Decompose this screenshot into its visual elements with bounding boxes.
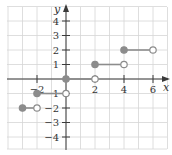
open-dot-icon [63, 90, 69, 96]
open-dot-icon [121, 61, 127, 67]
axes [7, 4, 170, 150]
step-segment [19, 105, 40, 111]
plot-area: −22464321−1−2−3−4 x y [0, 0, 172, 155]
y-tick-label: 3 [53, 30, 59, 41]
y-axis-label: y [53, 3, 61, 16]
y-tick-label: 1 [53, 59, 59, 70]
x-tick-label: 2 [92, 84, 98, 95]
closed-dot-icon [63, 76, 69, 82]
x-tick-label: 6 [150, 84, 156, 95]
y-tick-label: −3 [44, 117, 59, 128]
grid [7, 7, 168, 150]
closed-dot-icon [34, 90, 40, 96]
x-axis-label: x [163, 81, 170, 94]
closed-dot-icon [121, 47, 127, 53]
step-function-chart: −22464321−1−2−3−4 x y [0, 0, 172, 155]
y-tick-label: 2 [53, 45, 59, 56]
open-dot-icon [34, 105, 40, 111]
y-axis-arrow-icon [63, 4, 69, 12]
y-tick-label: 4 [53, 16, 59, 27]
open-dot-icon [150, 47, 156, 53]
closed-dot-icon [92, 61, 98, 67]
y-tick-label: −2 [44, 103, 59, 114]
x-tick-label: 4 [121, 84, 127, 95]
y-tick-label: −4 [44, 132, 59, 143]
closed-dot-icon [19, 105, 25, 111]
open-dot-icon [92, 76, 98, 82]
